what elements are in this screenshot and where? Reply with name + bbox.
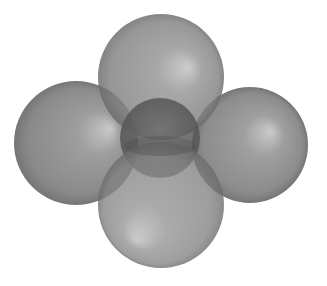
bottom-sphere	[98, 142, 224, 268]
center-overlap-shadow	[124, 136, 196, 156]
molecule-diagram	[0, 0, 327, 286]
